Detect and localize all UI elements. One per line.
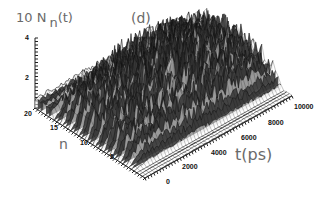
n-axis-label: n bbox=[59, 136, 68, 152]
t-tick-label: 6000 bbox=[241, 134, 257, 141]
n-tick-label: 20 bbox=[24, 110, 32, 117]
t-tick-label: 4000 bbox=[211, 149, 227, 156]
panel-label: (d) bbox=[131, 10, 151, 26]
z-tick-label: 4 bbox=[25, 34, 29, 41]
n-tick-label: 15 bbox=[50, 124, 58, 131]
n-tick-label: 5 bbox=[110, 153, 114, 160]
z-tick-label: 2 bbox=[25, 74, 29, 81]
t-tick-label: 0 bbox=[166, 178, 170, 185]
t-tick-label: 8000 bbox=[268, 119, 284, 126]
t-tick-label: 2000 bbox=[182, 163, 198, 170]
t-tick-label: 10000 bbox=[294, 103, 313, 110]
t-axis-label: t(ps) bbox=[235, 145, 272, 164]
z-axis-label: 10 Nn(t) bbox=[16, 10, 73, 25]
surface-plot-figure: 10 Nn(t) (d) n t(ps) 4 2 20 15 10 5 0 20… bbox=[0, 0, 336, 197]
n-tick-label: 10 bbox=[80, 139, 88, 146]
